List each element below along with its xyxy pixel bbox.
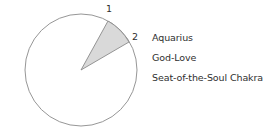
marker-1: 1 bbox=[106, 3, 112, 14]
marker-2: 2 bbox=[132, 31, 138, 42]
label-aquarius: Aquarius bbox=[152, 32, 193, 43]
label-god-love: God-Love bbox=[152, 52, 196, 63]
label-seat-of-the-soul-chakra: Seat-of-the-Soul Chakra bbox=[152, 72, 263, 83]
pie-diagram bbox=[0, 0, 276, 134]
